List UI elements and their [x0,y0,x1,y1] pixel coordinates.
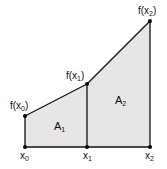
label-fx2: f(x2) [138,6,156,17]
point-fx2 [148,19,152,23]
point-x0 [23,145,27,149]
trapezoid-diagram [0,0,167,169]
label-x0: x0 [20,151,29,162]
area-a2-region [87,21,150,147]
label-fx1: f(x1) [66,71,84,82]
label-x1: x1 [83,151,92,162]
point-x1 [85,145,89,149]
label-fx0: f(x0) [10,101,28,112]
area-a1-region [25,84,87,147]
label-area-a2: A2 [115,95,126,107]
point-fx0 [23,114,27,118]
point-x2 [148,145,152,149]
label-x2: x2 [145,151,154,162]
point-fx1 [85,82,89,86]
label-area-a1: A1 [54,121,65,133]
